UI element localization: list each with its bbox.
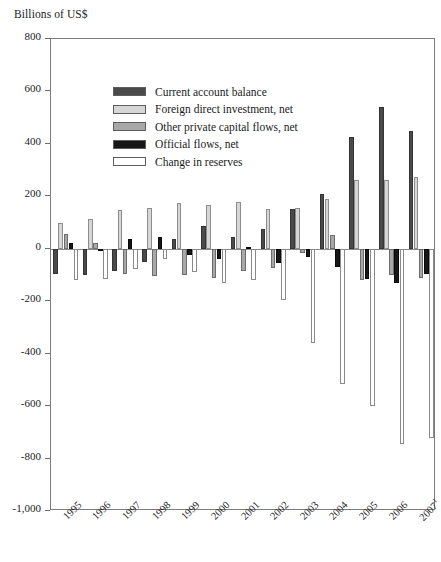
bar [93,243,98,249]
legend-item: Foreign direct investment, net [113,101,363,119]
legend-item: Official flows, net [113,136,363,154]
bar [152,249,157,277]
bar [217,249,222,259]
bar [429,249,434,438]
legend-item-label: Official flows, net [155,138,239,150]
bar [241,249,246,271]
bar [325,199,330,249]
bar [192,249,197,272]
bar [172,239,177,249]
y-axis-tick-label: 400 [25,135,42,147]
legend-item-label: Change in reserves [155,156,243,168]
bar [83,249,88,275]
bar [98,249,103,252]
bar [182,249,187,275]
bar [370,249,375,406]
bar [365,249,370,279]
bar [300,249,305,253]
bar [271,249,276,269]
bar [389,249,394,275]
bar [379,107,384,249]
bar [123,249,128,274]
series-swatch-other-private [113,122,146,131]
y-axis: 8006004002000-200-400-600-800-1,000 [0,38,50,510]
bar [88,219,93,249]
bar [320,194,325,249]
bar [419,249,424,278]
bar [246,247,251,249]
bar [206,205,211,249]
bar [53,249,58,274]
bar [142,249,147,263]
series-swatch-official [113,140,146,149]
figure-container: Billions of US$ 8006004002000-200-400-60… [0,0,441,562]
bar [163,249,168,259]
bar [112,249,117,271]
bar [276,249,281,263]
bar-group [377,39,407,509]
bar [231,237,236,249]
bar [58,223,63,249]
series-swatch-fdi [113,105,146,114]
bar [69,243,74,249]
legend-item: Other private capital flows, net [113,118,363,136]
y-axis-tick-label: -600 [21,397,41,409]
legend-item-label: Current account balance [155,86,267,98]
y-axis-tick-label: -800 [21,450,41,462]
y-axis-tick-label: -200 [21,292,41,304]
bar [281,249,286,300]
bar [118,210,123,249]
series-swatch-current-account [113,87,146,96]
bar-group [51,39,81,509]
bar-group [406,39,435,509]
y-axis-tick-mark [45,510,50,511]
bar-group [81,39,111,509]
legend-item-label: Other private capital flows, net [155,121,298,133]
bar [261,229,266,249]
bar [64,234,69,249]
bar [201,226,206,249]
bar [360,249,365,280]
bar [212,249,217,278]
bar [306,249,311,257]
bar [384,180,389,249]
y-axis-tick-label: 0 [36,240,42,252]
y-axis-unit-label: Billions of US$ [14,8,88,20]
series-swatch-reserves [113,157,146,166]
bar [394,249,399,283]
legend-item: Change in reserves [113,153,363,171]
bar [177,203,182,249]
bar [222,249,227,283]
bar [354,180,359,249]
y-axis-tick-label: -400 [21,345,41,357]
y-axis-tick-label: 200 [25,187,42,199]
legend-item: Current account balance [113,83,363,101]
footnote-marker: 1 [431,497,439,505]
y-axis-tick-label: 800 [25,30,42,42]
bar [335,249,340,267]
bar [424,249,429,274]
bar [414,177,419,249]
bar [103,249,108,279]
y-axis-tick-label: 600 [25,82,42,94]
bar [266,209,271,248]
legend-item-label: Foreign direct investment, net [155,103,293,115]
bar [295,208,300,249]
bar [311,249,316,343]
bar [128,239,133,249]
bar [74,249,79,280]
chart-legend: Current account balanceForeign direct in… [113,83,363,171]
bar [147,208,152,249]
plot-area: Current account balanceForeign direct in… [50,38,435,510]
bar [187,249,192,255]
x-axis: 1995199619971998199920002001200220032004… [50,512,435,562]
bar [251,249,256,280]
bar [158,237,163,249]
bar [400,249,405,444]
y-axis-tick-label: -1,000 [13,502,41,514]
bar [409,131,414,249]
bar [290,209,295,248]
bar [236,202,241,249]
bar [330,235,335,249]
bar [133,249,138,269]
